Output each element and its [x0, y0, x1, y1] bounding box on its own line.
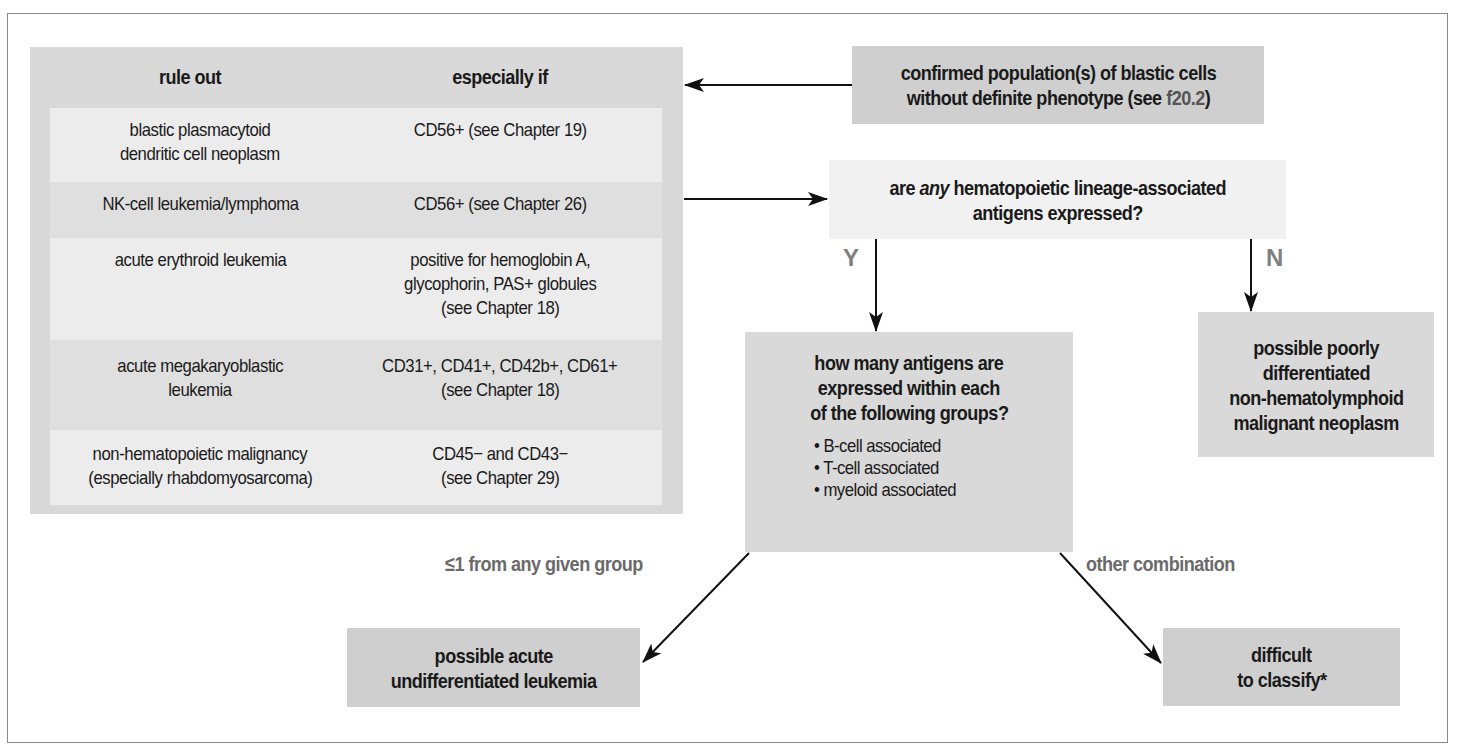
- flow-arrows: [0, 0, 1467, 750]
- arrow-other: [1060, 553, 1161, 663]
- arrow-le1: [643, 553, 749, 662]
